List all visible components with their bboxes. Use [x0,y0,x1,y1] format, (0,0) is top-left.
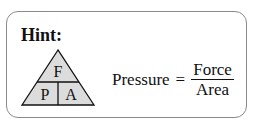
denominator: Area [196,80,229,100]
pressure-equation: Pressure = Force Area [112,60,234,100]
triangle-top-label: F [54,63,63,80]
triangle-left-label: P [41,86,50,103]
numerator: Force [191,60,234,80]
equation-lhs: Pressure [112,70,170,90]
fraction: Force Area [191,60,234,100]
equals-sign: = [176,70,186,90]
triangle-right-label: A [65,86,77,103]
